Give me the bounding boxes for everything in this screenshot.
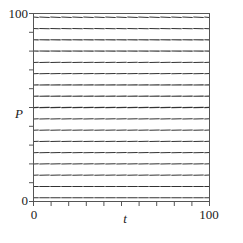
slope-field-plot: 100 0 0 100 P t bbox=[0, 0, 243, 243]
y-axis-max-label: 100 bbox=[9, 6, 29, 21]
x-axis-min-label: 0 bbox=[31, 207, 38, 222]
y-axis-title: P bbox=[14, 106, 23, 121]
x-axis-title: t bbox=[123, 211, 127, 226]
y-axis-min-label: 0 bbox=[22, 193, 29, 208]
x-axis-max-label: 100 bbox=[199, 207, 219, 222]
slope-field-figure: 100 0 0 100 P t bbox=[0, 0, 243, 243]
